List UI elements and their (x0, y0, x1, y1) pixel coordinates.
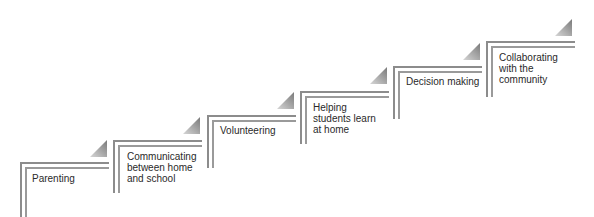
step-label: Helping students learn at home (313, 102, 376, 135)
step-label: Collaborating with the community (499, 52, 558, 85)
triangle-icon (183, 117, 200, 134)
step-frame (393, 66, 482, 119)
triangle-icon (370, 67, 387, 84)
step-label: Volunteering (220, 125, 276, 136)
step-frame (20, 162, 109, 217)
step-label: Parenting (32, 173, 75, 184)
triangle-icon (90, 140, 107, 157)
step-label: Communicating between home and school (127, 151, 196, 184)
triangle-icon (463, 43, 480, 60)
triangle-icon (277, 92, 294, 109)
triangle-icon (555, 19, 572, 36)
step-label: Decision making (406, 76, 479, 87)
step-frame (207, 115, 296, 168)
staircase-diagram: Parenting Communicating between home and… (0, 0, 594, 217)
